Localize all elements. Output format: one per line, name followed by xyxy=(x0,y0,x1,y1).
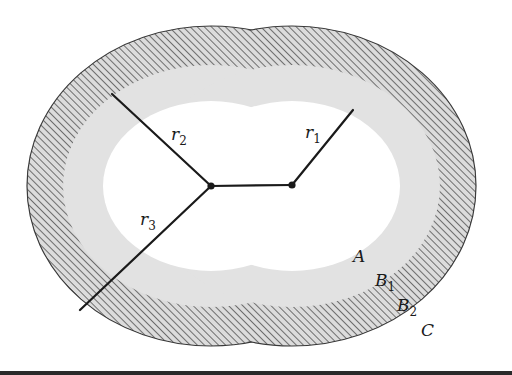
left-center-point xyxy=(207,182,214,189)
label-region-c: C xyxy=(421,320,434,340)
center-connector-line xyxy=(211,185,292,186)
bottom-rule xyxy=(0,371,512,375)
label-region-a: A xyxy=(351,246,365,266)
two-lobe-region-diagram: r2 r1 r3 A B1 B2 C xyxy=(0,0,512,375)
right-center-point xyxy=(288,181,295,188)
